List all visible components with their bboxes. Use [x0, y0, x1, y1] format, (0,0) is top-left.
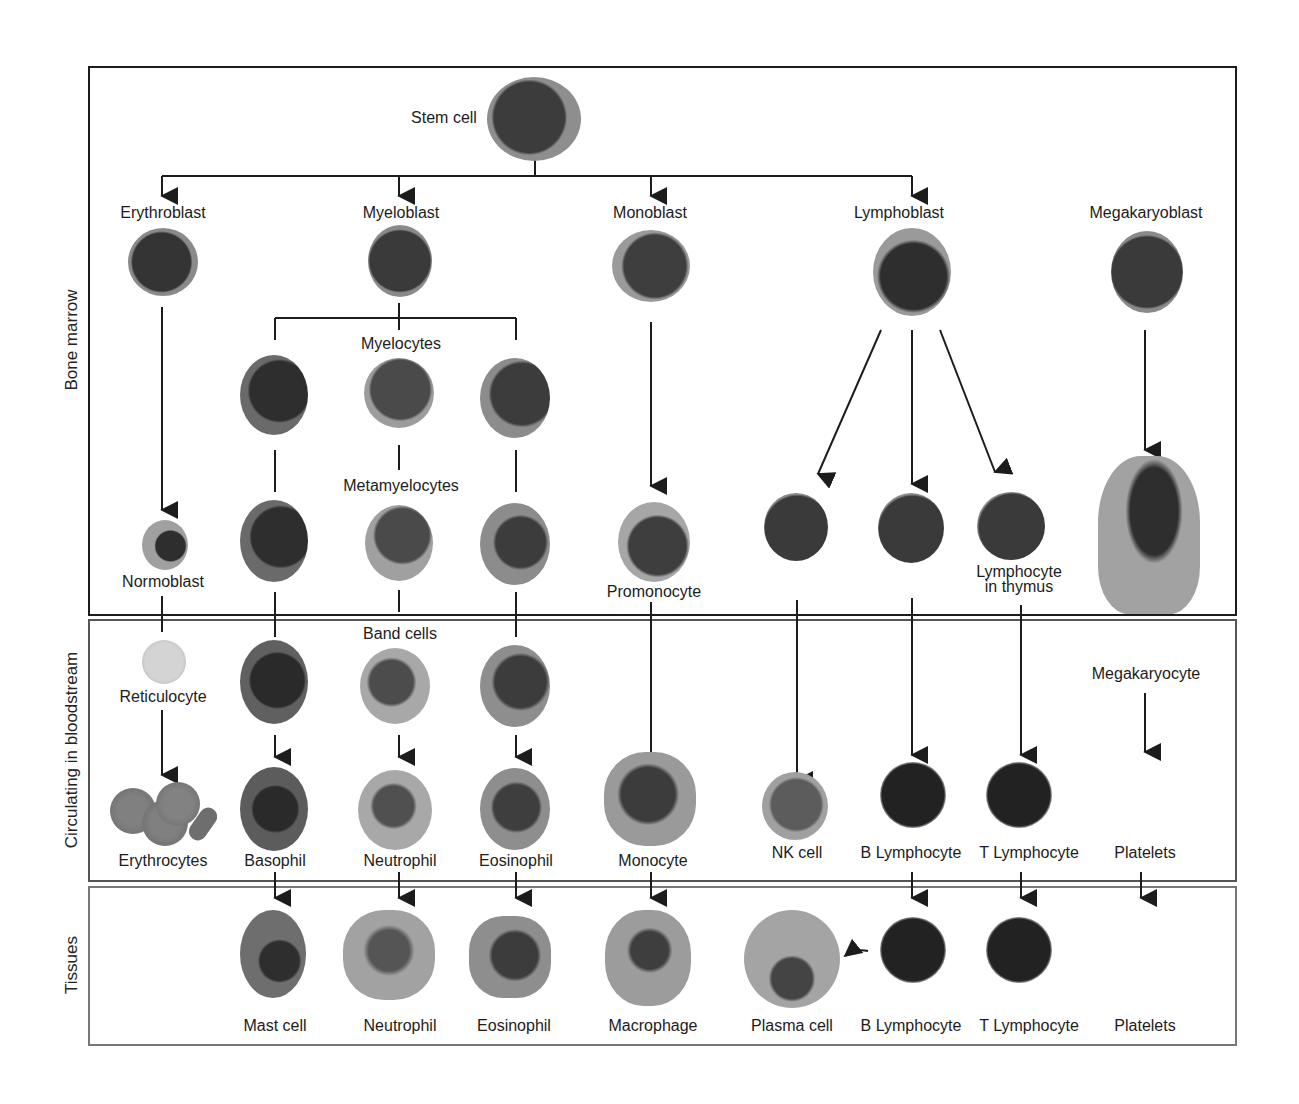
- macrophage-icon: [605, 910, 691, 1006]
- eosinophilic-metamyelocyte-icon: [480, 503, 550, 585]
- basophil-band-icon: [240, 640, 308, 724]
- monocyte-label: Monocyte: [618, 853, 687, 869]
- megakaryocyte-icon: [1098, 456, 1200, 614]
- lymphocyte-in-thymus-label: Lymphocyte in thymus: [969, 564, 1069, 594]
- tissue-t-lymphocyte-label: T Lymphocyte: [979, 1018, 1079, 1034]
- macrophage-label: Macrophage: [609, 1018, 698, 1034]
- basophilic-metamyelocyte-icon: [240, 500, 308, 582]
- lymphocyte-in-thymus-icon: [977, 492, 1045, 560]
- erythrocytes-label: Erythrocytes: [119, 853, 208, 869]
- myeloblast-icon: [368, 225, 432, 297]
- band-cells-label: Band cells: [363, 626, 437, 642]
- tissue-b-lymphocyte-icon: [880, 917, 946, 983]
- promonocyte-icon: [618, 502, 690, 582]
- eosinophil-icon: [480, 768, 550, 850]
- myelocytes-label: Myelocytes: [361, 336, 441, 352]
- megakaryoblast-label: Megakaryoblast: [1090, 205, 1203, 221]
- tissue-eosinophil-icon: [469, 916, 551, 998]
- band-eosinophil-icon: [480, 645, 550, 727]
- lymphoblast-label: Lymphoblast: [854, 205, 944, 221]
- lymphoblast-icon: [873, 228, 951, 316]
- monoblast-label: Monoblast: [613, 205, 687, 221]
- neutrophilic-myelocyte-icon: [364, 358, 434, 428]
- metamyelocytes-label: Metamyelocytes: [343, 478, 459, 494]
- neutrophilic-metamyelocyte-icon: [365, 505, 433, 581]
- nk-precursor-icon: [764, 493, 828, 561]
- neutrophil-label: Neutrophil: [364, 853, 437, 869]
- b-lymphocyte-precursor-icon: [878, 493, 944, 563]
- tissue-neutrophil-icon: [343, 910, 435, 1000]
- tissue-b-lymphocyte-label: B Lymphocyte: [861, 1018, 962, 1034]
- eosinophil-label: Eosinophil: [479, 853, 553, 869]
- tissue-neutrophil-label: Neutrophil: [364, 1018, 437, 1034]
- normoblast-label: Normoblast: [122, 574, 204, 590]
- normoblast-icon: [142, 520, 188, 570]
- stem-cell-label: Stem cell: [411, 110, 477, 126]
- tissue-eosinophil-label: Eosinophil: [477, 1018, 551, 1034]
- nk-cell-icon: [762, 772, 828, 840]
- megakaryocyte-label: Megakaryocyte: [1092, 666, 1201, 682]
- nk-cell-label: NK cell: [772, 845, 823, 861]
- erythroblast-label: Erythroblast: [120, 205, 205, 221]
- monocyte-icon: [604, 752, 696, 846]
- neutrophil-icon: [358, 770, 432, 850]
- b-lymphocyte-label: B Lymphocyte: [861, 845, 962, 861]
- monoblast-icon: [612, 230, 690, 302]
- basophil-icon: [240, 767, 308, 851]
- t-lymphocyte-label: T Lymphocyte: [979, 845, 1079, 861]
- platelets-label: Platelets: [1114, 845, 1175, 861]
- b-lymphocyte-icon: [880, 762, 946, 828]
- plasma-cell-label: Plasma cell: [751, 1018, 833, 1034]
- eosinophilic-myelocyte-icon: [480, 358, 550, 438]
- basophil-label: Basophil: [244, 853, 305, 869]
- mast-cell-icon: [240, 910, 306, 998]
- erythrocyte-icon: [156, 782, 200, 826]
- erythroblast-icon: [128, 228, 198, 296]
- stem-cell-icon: [487, 77, 581, 161]
- tissue-t-lymphocyte-icon: [986, 917, 1052, 983]
- t-lymphocyte-icon: [986, 762, 1052, 828]
- reticulocyte-icon: [142, 640, 186, 684]
- band-neutrophil-icon: [360, 648, 430, 724]
- mast-cell-label: Mast cell: [243, 1018, 306, 1034]
- promonocyte-label: Promonocyte: [607, 584, 701, 600]
- tissue-platelets-label: Platelets: [1114, 1018, 1175, 1034]
- myeloblast-label: Myeloblast: [363, 205, 439, 221]
- basophilic-myelocyte-icon: [240, 355, 308, 435]
- plasma-cell-icon: [744, 910, 840, 1008]
- reticulocyte-label: Reticulocyte: [119, 689, 206, 705]
- megakaryoblast-icon: [1111, 231, 1183, 313]
